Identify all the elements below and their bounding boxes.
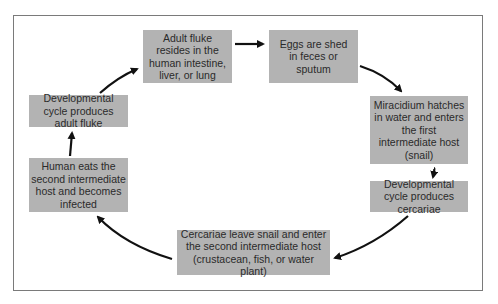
arrow-miracidium-to-cercariae — [433, 168, 434, 177]
step-adult-fluke: Adult fluke resides in the human intesti… — [143, 30, 232, 83]
step-eggs-shed: Eggs are shed in feces or sputum — [269, 30, 358, 83]
step-label: Cercariae leave snail and enter the seco… — [180, 228, 327, 278]
step-label: Human eats the second intermediate host … — [31, 160, 126, 210]
step-miracidium: Miracidium hatches in water and enters t… — [370, 96, 468, 164]
step-label: Miracidium hatches in water and enters t… — [372, 99, 466, 162]
step-dev-adult: Developmental cycle produces adult fluke — [29, 95, 128, 127]
step-label: Adult fluke resides in the human intesti… — [145, 32, 230, 82]
step-cercariae-leave: Cercariae leave snail and enter the seco… — [177, 230, 330, 275]
step-human-eats: Human eats the second intermediate host … — [29, 158, 128, 212]
arrow-human-to-devadult — [70, 133, 72, 156]
arrow-eggs-to-miracidium — [360, 66, 401, 91]
arrow-devadult-to-adult — [100, 69, 137, 93]
step-label: Developmental cycle produces cercariae — [372, 178, 466, 216]
step-dev-cercariae: Developmental cycle produces cercariae — [370, 181, 468, 212]
arrow-leave-to-human — [98, 217, 172, 259]
step-label: Developmental cycle produces adult fluke — [31, 92, 126, 130]
step-label: Eggs are shed in feces or sputum — [275, 38, 352, 76]
arrow-cercariae-to-leave — [335, 216, 408, 258]
